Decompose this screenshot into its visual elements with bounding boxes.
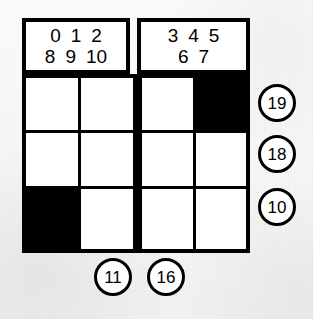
header-left-r1-c2: 1 xyxy=(66,26,87,45)
header-right-row-2: 6 7 xyxy=(173,47,214,66)
grid-cell-r1c2[interactable] xyxy=(81,78,133,130)
column-clue-1: 11 xyxy=(94,258,132,296)
header-right-r2-c2: 7 xyxy=(194,47,215,66)
header-left-r2-c3: 10 xyxy=(81,47,112,66)
grid-cell-r3c3[interactable] xyxy=(142,189,193,249)
grid-cell-r3c4[interactable] xyxy=(196,189,246,249)
header-right-row-1: 3 4 5 xyxy=(163,26,225,45)
grid-cell-r2c2[interactable] xyxy=(81,133,133,186)
header-left-row-2: 8 9 10 xyxy=(40,47,112,66)
grid-cell-r3c2[interactable] xyxy=(81,189,133,249)
row-clue-3: 10 xyxy=(258,188,296,226)
grid-cell-r3c1[interactable] xyxy=(26,189,78,249)
header-left-r2-c1: 8 xyxy=(40,47,61,66)
header-left-r2-c2: 9 xyxy=(60,47,81,66)
grid-cell-r2c1[interactable] xyxy=(26,133,78,186)
grid-cell-r2c4[interactable] xyxy=(196,133,246,186)
column-clue-2: 16 xyxy=(147,258,185,296)
grid-cell-r1c4[interactable] xyxy=(196,78,246,130)
header-left-r1-c1: 0 xyxy=(45,26,66,45)
grid-cell-r2c3[interactable] xyxy=(142,133,193,186)
grid-cell-r1c1[interactable] xyxy=(26,78,78,130)
header-right-r1-c2: 4 xyxy=(183,26,204,45)
header-left-row-1: 0 1 2 xyxy=(45,26,107,45)
row-clue-2: 18 xyxy=(258,135,296,173)
grid-cell-r1c3[interactable] xyxy=(142,78,193,130)
puzzle-grid xyxy=(22,74,250,253)
header-left-r1-c3: 2 xyxy=(86,26,107,45)
header-right-r1-c3: 5 xyxy=(204,26,225,45)
puzzle-board: 0 1 2 8 9 10 3 4 5 6 7 xyxy=(0,0,313,319)
header-clue-box-right: 3 4 5 6 7 xyxy=(137,18,250,74)
row-clue-1: 19 xyxy=(258,84,296,122)
header-right-r1-c1: 3 xyxy=(163,26,184,45)
header-clue-box-left: 0 1 2 8 9 10 xyxy=(22,18,130,74)
header-right-r2-c1: 6 xyxy=(173,47,194,66)
grid-thick-divider xyxy=(133,78,142,249)
